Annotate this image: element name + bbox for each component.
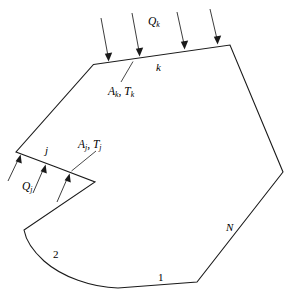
label-area-j-symbol: A: [78, 138, 85, 150]
label-heat-flux-top-subscript: k: [156, 20, 159, 29]
label-surface-one: 1: [158, 272, 164, 283]
label-temp-k-subscript: k: [131, 90, 134, 99]
top-flux-arrow-group: [101, 9, 221, 62]
label-heat-flux-left: Qj: [22, 181, 32, 193]
label-area-k-symbol: A: [108, 85, 115, 97]
label-surface-k: k: [156, 62, 161, 73]
label-heat-flux-top: Qk: [148, 16, 160, 28]
label-area-temp-j: Aj, Tj: [78, 139, 102, 151]
label-surface-two: 2: [53, 249, 59, 260]
left-flux-arrow-3: [57, 174, 71, 203]
label-surface-j: j: [45, 145, 48, 156]
label-temp-k-symbol: T: [124, 85, 130, 97]
left-flux-arrow-1: [8, 155, 22, 182]
label-area-j-subscript: j: [85, 143, 87, 152]
left-flux-arrow-group: [8, 155, 71, 203]
label-surface-n: N: [226, 222, 233, 233]
leader-line-aj-tj: [72, 151, 97, 171]
label-temp-j-subscript: j: [99, 143, 101, 152]
top-flux-arrow-4: [210, 9, 221, 45]
label-area-temp-k: Ak, Tk: [108, 86, 134, 98]
top-flux-arrow-2: [132, 13, 143, 57]
label-area-k-subscript: k: [115, 90, 118, 99]
leader-line-ak-tk: [121, 62, 133, 83]
figure-container: Qk k Ak, Tk j Aj, Tj Qj N 2 1: [0, 0, 295, 306]
left-flux-arrow-2: [33, 165, 47, 194]
top-flux-arrow-1: [101, 18, 112, 62]
top-flux-arrow-3: [177, 12, 188, 50]
